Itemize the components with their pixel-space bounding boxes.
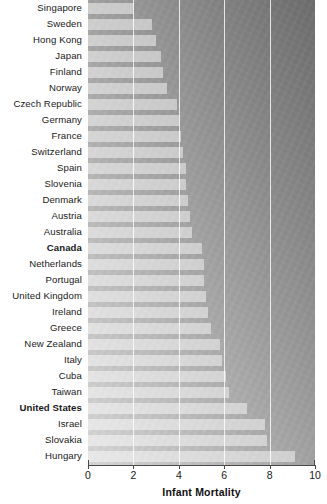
category-label: Japan xyxy=(0,51,82,61)
bar xyxy=(88,371,226,382)
category-label-column: SingaporeSwedenHong KongJapanFinlandNorw… xyxy=(0,0,86,465)
bar xyxy=(88,3,133,14)
category-label: United Kingdom xyxy=(0,291,82,301)
gridline xyxy=(270,0,271,465)
bar xyxy=(88,227,192,238)
category-label: Cuba xyxy=(0,371,82,381)
category-label: Switzerland xyxy=(0,147,82,157)
x-axis-title: Infant Mortality xyxy=(88,486,315,498)
infant-mortality-bar-chart: SingaporeSwedenHong KongJapanFinlandNorw… xyxy=(0,0,327,504)
category-label: Czech Republic xyxy=(0,99,82,109)
bar xyxy=(88,435,267,446)
bar xyxy=(88,275,204,286)
bar xyxy=(88,67,163,78)
category-label: Portugal xyxy=(0,275,82,285)
bar xyxy=(88,291,206,302)
bar xyxy=(88,115,179,126)
category-label: Singapore xyxy=(0,3,82,13)
category-label: Italy xyxy=(0,355,82,365)
bar xyxy=(88,19,152,30)
bar xyxy=(88,131,181,142)
category-label: Spain xyxy=(0,163,82,173)
bar xyxy=(88,195,188,206)
bar xyxy=(88,243,202,254)
bar xyxy=(88,451,295,462)
category-label: Denmark xyxy=(0,195,82,205)
bar xyxy=(88,51,161,62)
bar xyxy=(88,323,211,334)
x-tick-label: 0 xyxy=(73,469,103,481)
x-axis-line xyxy=(88,465,315,466)
bar xyxy=(88,259,204,270)
bar xyxy=(88,419,265,430)
category-label: Finland xyxy=(0,67,82,77)
x-tick-label: 10 xyxy=(300,469,327,481)
bar xyxy=(88,99,177,110)
category-label: Hong Kong xyxy=(0,35,82,45)
bar xyxy=(88,35,156,46)
category-label: Taiwan xyxy=(0,387,82,397)
category-label: New Zealand xyxy=(0,339,82,349)
bar xyxy=(88,355,222,366)
x-tick-label: 4 xyxy=(164,469,194,481)
category-label: Hungary xyxy=(0,451,82,461)
category-label: Israel xyxy=(0,419,82,429)
category-label: Norway xyxy=(0,83,82,93)
category-label: Slovakia xyxy=(0,435,82,445)
category-label: Canada xyxy=(0,243,82,253)
plot-area xyxy=(88,0,315,465)
bar xyxy=(88,403,247,414)
category-label: Slovenia xyxy=(0,179,82,189)
bar xyxy=(88,147,183,158)
bar xyxy=(88,307,208,318)
category-label: Netherlands xyxy=(0,259,82,269)
bar xyxy=(88,179,186,190)
category-label: Germany xyxy=(0,115,82,125)
category-label: Sweden xyxy=(0,19,82,29)
category-label: Austria xyxy=(0,211,82,221)
bar xyxy=(88,387,229,398)
category-label: United States xyxy=(0,403,82,413)
bar xyxy=(88,83,167,94)
bar xyxy=(88,163,186,174)
category-label: Greece xyxy=(0,323,82,333)
category-label: Australia xyxy=(0,227,82,237)
bar xyxy=(88,339,220,350)
category-label: France xyxy=(0,131,82,141)
x-tick-label: 6 xyxy=(209,469,239,481)
x-tick-label: 2 xyxy=(118,469,148,481)
bar xyxy=(88,211,190,222)
x-tick-label: 8 xyxy=(255,469,285,481)
category-label: Ireland xyxy=(0,307,82,317)
